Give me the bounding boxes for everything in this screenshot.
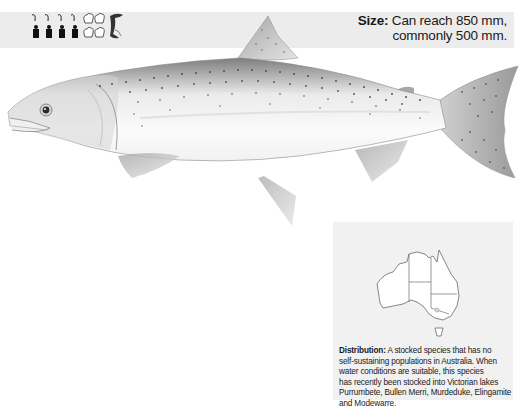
size-label: Size: [358,13,389,28]
size-max: Can reach 850 mm, [392,13,507,28]
distribution-line: A stocked species that has no [387,346,491,355]
size-info: Size: Can reach 850 mm, commonly 500 mm. [358,13,507,43]
australia-outline-map [373,244,477,348]
angler-icon [69,13,81,43]
angler-icon [30,13,42,43]
chef-hat-icons [82,12,106,44]
australia-map-icon [373,244,477,344]
fish-leaping-icon [107,12,125,44]
distribution-panel: Distribution: A stocked species that has… [333,222,513,400]
distribution-line: and Modewarre. [339,399,396,406]
distribution-text: Distribution: A stocked species that has… [339,346,513,406]
distribution-line: Purrumbete, Bullen Merri, Murdeduke, Eli… [339,388,511,397]
angler-icon [56,13,68,43]
distribution-line: water conditions are suitable, this spec… [339,367,484,376]
size-common: commonly 500 mm. [358,28,507,43]
distribution-marker [435,308,439,312]
distribution-label: Distribution: [339,346,386,355]
distribution-line: self-sustaining populations in Australia… [339,357,497,366]
angler-icon [43,13,55,43]
distribution-line: has recently been stocked into Victorian… [339,378,498,387]
rating-icons [30,14,125,42]
